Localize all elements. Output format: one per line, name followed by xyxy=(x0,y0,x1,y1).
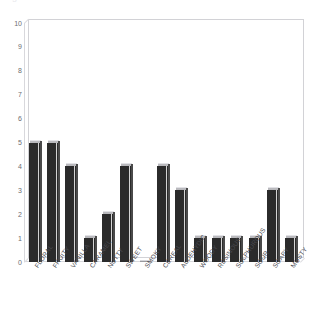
y-axis-tick-label: 0 xyxy=(18,259,22,266)
y-axis-tick-label: 5 xyxy=(18,139,22,146)
bar-slot xyxy=(136,23,153,262)
y-axis-tick-label: 2 xyxy=(18,211,22,218)
bar-slot xyxy=(282,23,299,262)
bar-slot xyxy=(62,23,79,262)
bar-highlight xyxy=(276,190,277,262)
x-tick-slot: RESINOUS xyxy=(209,263,226,319)
x-tick-slot: SOUR xyxy=(246,263,263,319)
y-axis-tick-label: 8 xyxy=(18,67,22,74)
bar-slot xyxy=(99,23,116,262)
bar-slot xyxy=(264,23,281,262)
y-axis-tick-label: 1 xyxy=(18,235,22,242)
x-tick-slot: SWEET xyxy=(117,263,134,319)
bar-slot xyxy=(154,23,171,262)
y-axis-tick-labels: 012345678910 xyxy=(0,0,24,319)
bar-slot xyxy=(191,23,208,262)
x-tick-slot: FRUITY xyxy=(44,263,61,319)
y-axis-tick-label: 3 xyxy=(18,187,22,194)
bar-side-face xyxy=(131,164,133,262)
x-axis-tick-labels: FLORALFRUITYVANILLACARAMELNUTTYSWEETSMOK… xyxy=(25,263,300,319)
bar-highlight xyxy=(74,166,75,262)
y-axis-tick-label: 6 xyxy=(18,115,22,122)
bar-side-face xyxy=(40,141,42,263)
bar-highlight xyxy=(184,190,185,262)
plot-area xyxy=(25,23,300,262)
x-tick-slot: WOODY xyxy=(191,263,208,319)
x-tick-slot: SMOKY xyxy=(136,263,153,319)
x-tick-slot: VANILLA xyxy=(62,263,79,319)
bar-chart: 012345678910 FLORALFRUITYVANILLACARAMELN… xyxy=(0,0,322,319)
y-axis-tick-label: 10 xyxy=(14,20,22,27)
bar-slot xyxy=(172,23,189,262)
bar-slot xyxy=(117,23,134,262)
bar-slot xyxy=(209,23,226,262)
bar-slot xyxy=(227,23,244,262)
bar-slot xyxy=(26,23,43,262)
x-tick-slot: NUTTY xyxy=(99,263,116,319)
x-tick-slot: SULPHUROUS xyxy=(227,263,244,319)
bar-highlight xyxy=(166,166,167,262)
bar-side-face xyxy=(58,141,60,263)
y-axis-tick-label: 7 xyxy=(18,91,22,98)
bar-slot xyxy=(81,23,98,262)
y-axis-tick-label: 9 xyxy=(18,43,22,50)
bar-highlight xyxy=(38,143,39,263)
bar-side-face xyxy=(168,164,170,262)
bar-highlight xyxy=(56,143,57,263)
bar[interactable] xyxy=(29,143,40,263)
x-tick-slot: MUSTY xyxy=(282,263,299,319)
x-tick-slot: CARAMEL xyxy=(81,263,98,319)
x-tick-slot: FLORAL xyxy=(26,263,43,319)
x-tick-slot: ALDEHYDIC xyxy=(172,263,189,319)
bar-side-face xyxy=(76,164,78,262)
y-axis-tick-label: 4 xyxy=(18,163,22,170)
bar-series xyxy=(25,23,300,262)
bar-highlight xyxy=(129,166,130,262)
x-tick-slot: CEREAL xyxy=(154,263,171,319)
x-tick-slot: SOAPY xyxy=(264,263,281,319)
bar-slot xyxy=(44,23,61,262)
